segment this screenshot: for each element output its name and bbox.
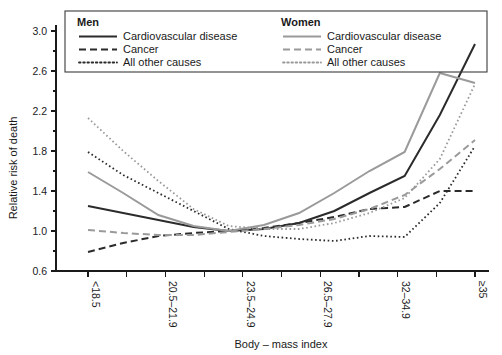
x-tick-label: 23.5–24.9 (245, 281, 257, 328)
series-lines (88, 44, 475, 252)
series-line-3 (88, 73, 475, 231)
x-tick-label: <18.5 (90, 281, 102, 308)
legend-women-label-1: Cancer (327, 43, 363, 55)
y-tick-label: 1.0 (32, 225, 47, 237)
chart-canvas: 0.61.01.41.82.22.63.0 <18.520.5–21.923.5… (0, 0, 502, 355)
legend-heading-women: Women (281, 16, 321, 28)
y-tick-label: 0.6 (32, 265, 47, 277)
y-tick-label: 2.6 (32, 65, 47, 77)
series-line-1 (88, 191, 475, 252)
x-axis: <18.520.5–21.923.5–24.926.5–27.932–34.9≥… (56, 271, 489, 328)
legend-men-label-2: All other causes (123, 56, 202, 68)
chart-legend: MenCardiovascular diseaseCancerAll other… (65, 11, 487, 72)
x-tick-label: 20.5–21.9 (167, 281, 179, 328)
y-tick-label: 2.2 (32, 105, 47, 117)
y-tick-label: 1.4 (32, 185, 47, 197)
y-tick-label: 1.8 (32, 145, 47, 157)
y-axis: 0.61.01.41.82.22.63.0 (32, 25, 56, 277)
x-tick-label: 26.5–27.9 (322, 281, 334, 328)
x-tick-label: 32–34.9 (400, 281, 412, 319)
legend-men-label-1: Cancer (123, 43, 159, 55)
y-axis-title: Relative risk of death (7, 117, 19, 220)
legend-heading-men: Men (77, 16, 99, 28)
chart-figure: 0.61.01.41.82.22.63.0 <18.520.5–21.923.5… (0, 0, 502, 355)
legend-women-label-0: Cardiovascular disease (327, 30, 441, 42)
x-tick-label: ≥35 (477, 281, 489, 299)
x-axis-title: Body – mass index (235, 338, 328, 350)
legend-men-label-0: Cardiovascular disease (123, 30, 237, 42)
y-tick-label: 3.0 (32, 25, 47, 37)
legend-women-label-2: All other causes (327, 56, 406, 68)
